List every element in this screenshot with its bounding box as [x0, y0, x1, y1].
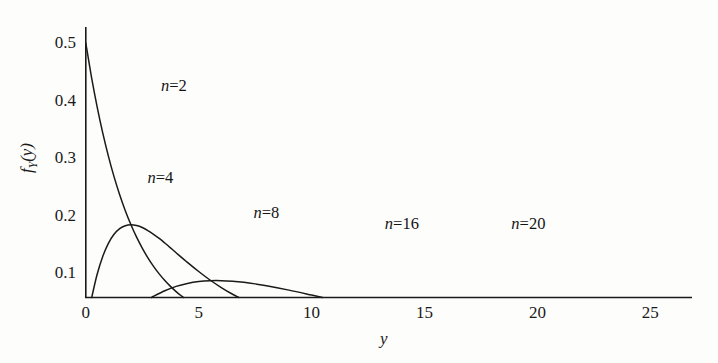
y-tick-label-0.2: 0.2	[28, 206, 76, 226]
curve-annotation-n-16: n=16	[385, 214, 419, 234]
x-tick-label-0: 0	[82, 303, 91, 323]
density-curve-n-4	[92, 225, 239, 298]
annotation-symbol: n	[385, 214, 393, 233]
y-tick-label-0.4: 0.4	[28, 91, 76, 111]
x-tick-label-25: 25	[642, 303, 659, 323]
chi-square-density-figure: fY(y) y 0.10.20.30.40.5 0510152025 n=2n=…	[0, 0, 718, 363]
y-tick-label-0.3: 0.3	[28, 148, 76, 168]
y-axis-label-f: f	[17, 168, 36, 173]
annotation-value: =16	[393, 214, 419, 233]
density-curve-n-8	[152, 281, 323, 298]
x-axis-label: y	[380, 329, 388, 349]
curve-annotation-n-20: n=20	[511, 214, 545, 234]
x-tick-label-20: 20	[529, 303, 546, 323]
annotation-value: =4	[156, 168, 174, 187]
annotation-symbol: n	[147, 168, 155, 187]
curve-annotation-n-8: n=8	[253, 203, 279, 223]
plot-area	[0, 0, 718, 363]
annotation-value: =2	[169, 76, 187, 95]
curve-annotation-n-4: n=4	[147, 168, 173, 188]
annotation-value: =20	[520, 214, 546, 233]
y-tick-label-0.1: 0.1	[28, 263, 76, 283]
curves-group	[86, 43, 323, 298]
x-tick-label-15: 15	[416, 303, 433, 323]
x-tick-label-5: 5	[194, 303, 203, 323]
annotation-symbol: n	[161, 76, 169, 95]
curve-annotation-n-2: n=2	[161, 76, 187, 96]
y-tick-label-0.5: 0.5	[28, 33, 76, 53]
annotation-symbol: n	[511, 214, 519, 233]
annotation-value: =8	[262, 203, 280, 222]
annotation-symbol: n	[253, 203, 261, 222]
x-tick-label-10: 10	[303, 303, 320, 323]
